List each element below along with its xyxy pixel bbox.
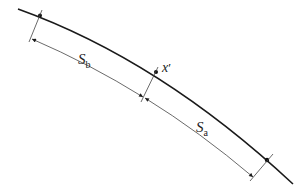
dimension-line-sa — [145, 98, 253, 177]
label-x-prime: x′ — [161, 60, 171, 75]
curve — [18, 9, 293, 184]
label-sa: Sa — [196, 119, 209, 138]
arc-length-diagram: Sb Sa x′ — [0, 0, 306, 188]
extension-line-end — [250, 154, 273, 181]
label-sb: Sb — [78, 51, 91, 70]
